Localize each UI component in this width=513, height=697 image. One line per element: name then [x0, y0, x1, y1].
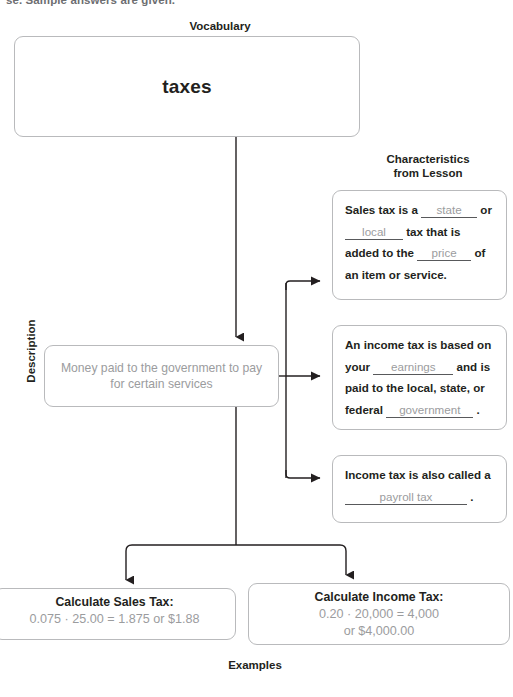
example2-calculation-line-1: 0.20 · 20,000 = 4,000 [257, 606, 501, 623]
char1-text-part-4: added to the [345, 246, 417, 259]
example2-calculation-line-2: or $4,000.00 [257, 623, 501, 640]
graphic-organizer: se. Sample answers are given. Vocabulary… [0, 0, 513, 697]
char1-text-part-1: Sales tax is a [345, 203, 421, 216]
characteristic-box-income-tax-alias[interactable]: Income tax is also called a payroll tax … [332, 455, 507, 523]
example2-title: Calculate Income Tax: [257, 588, 501, 606]
label-characteristics-line-2: from Lesson [358, 167, 498, 181]
char3-text-part-3: . [470, 490, 473, 503]
char2-text-part-3: and [457, 360, 481, 373]
char1-text-part-2: or [480, 203, 492, 216]
char3-blank-payroll-tax[interactable]: payroll tax [345, 489, 467, 505]
char3-text-part-2: a [484, 468, 490, 481]
char2-blank-earnings[interactable]: earnings [373, 359, 453, 375]
example1-title: Calculate Sales Tax: [2, 593, 227, 611]
cut-off-instruction-text: se. Sample answers are given. [6, 0, 175, 6]
connector-to-example-2 [236, 545, 346, 575]
description-answer-text: Money paid to the government to pay for … [53, 360, 270, 392]
char1-blank-local[interactable]: local [345, 224, 403, 240]
connector-to-characteristic-3 [286, 470, 320, 478]
char2-text-part-1: An income tax is based [345, 338, 477, 351]
example1-calculation: 0.075 · 25.00 = 1.875 or $1.88 [2, 611, 227, 628]
label-vocabulary: Vocabulary [120, 20, 320, 34]
vocabulary-term: taxes [162, 76, 212, 98]
vocabulary-box[interactable]: taxes [14, 36, 360, 137]
char2-blank-government[interactable]: government [386, 402, 473, 418]
char2-text-part-6: . [476, 403, 479, 416]
characteristic-box-income-tax-basis[interactable]: An income tax is based on your earnings … [332, 325, 507, 430]
connector-to-characteristic-1 [286, 281, 320, 290]
char3-text-part-1: Income tax is also called [345, 468, 484, 481]
label-characteristics: Characteristics from Lesson [358, 153, 498, 180]
char1-text-part-3: tax that is [406, 225, 460, 238]
label-characteristics-line-1: Characteristics [358, 153, 498, 167]
example-box-sales-tax[interactable]: Calculate Sales Tax: 0.075 · 25.00 = 1.8… [0, 588, 236, 640]
connector-to-example-1 [126, 545, 236, 580]
label-description: Description [25, 311, 37, 391]
example-box-income-tax[interactable]: Calculate Income Tax: 0.20 · 20,000 = 4,… [248, 583, 510, 645]
characteristic-box-sales-tax[interactable]: Sales tax is a state or local tax that i… [332, 190, 507, 300]
char1-blank-state[interactable]: state [421, 202, 477, 218]
char1-blank-price[interactable]: price [417, 245, 471, 261]
label-examples: Examples [160, 659, 350, 673]
description-box[interactable]: Money paid to the government to pay for … [44, 345, 279, 407]
